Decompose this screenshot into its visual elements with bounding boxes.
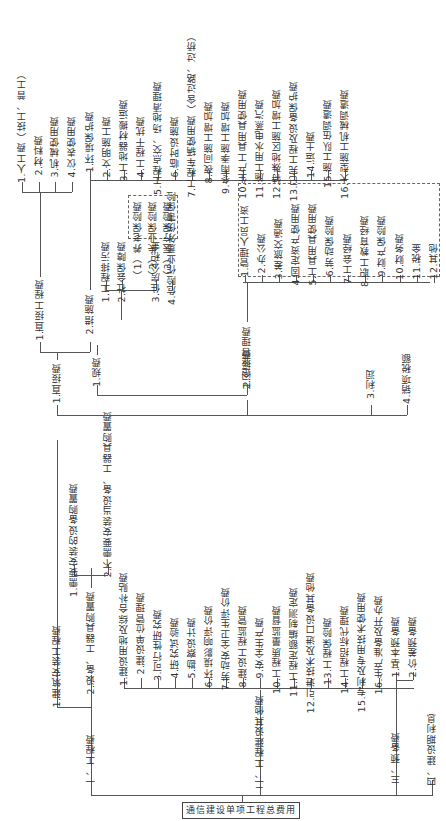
level1-bus <box>91 795 433 796</box>
connector <box>247 400 248 415</box>
social-security-item: （2）失业保险费 <box>147 200 158 280</box>
measure-item: 4.工程干扰费 <box>135 115 146 178</box>
node-enterprise-management: 2.企业管理费 <box>241 325 252 388</box>
connector <box>57 707 91 708</box>
fee-item: 2.社会保障费 <box>116 240 127 303</box>
equipment-item: 1.需要安装的设备购置费 <box>68 482 79 597</box>
other-cost-item: 5.勘察设计费 <box>186 616 197 679</box>
connector <box>407 405 408 415</box>
measure-item: 14.运土费 <box>305 130 316 178</box>
management-item: 1.管理人员工资 <box>239 204 250 277</box>
connector <box>57 405 58 415</box>
measure-item: 12.特殊地区施工增加费 <box>271 88 282 199</box>
node-construction-interest: 四、建设期利息 <box>426 712 437 786</box>
connector <box>262 275 263 283</box>
equipment-item: 2.不需要安装当设备、工器具购置费 <box>102 410 113 578</box>
direct-engineering-item: 2.材料费 <box>33 134 44 176</box>
other-cost-item: 2.建设单位管理费 <box>135 591 146 675</box>
social-security-item: （3）医疗保险费 <box>162 200 173 280</box>
node-building-install-cost: 1.建筑安装工程费 <box>51 624 62 708</box>
measure-item: 15.施工队伍调遣费 <box>322 98 333 188</box>
management-bus <box>243 282 430 283</box>
other-cost-item: 15.专利及专用技术使用费 <box>356 591 367 713</box>
node-measures: 2.措施费 <box>84 293 95 335</box>
other-cost-item: 11.工程定额编制测定费 <box>288 586 299 697</box>
connector <box>396 680 413 681</box>
other-cost-item: 4.研究试验费 <box>169 616 180 679</box>
node-engineering-cost: 一、工程费 <box>85 733 96 786</box>
connector <box>57 352 58 360</box>
connector <box>90 180 91 290</box>
management-item: 6.劳动保险费 <box>324 214 335 277</box>
measure-item: 16.大型施工机械调遣费 <box>339 88 350 199</box>
management-item: 9.财产保险费 <box>376 214 387 277</box>
management-item: 8.职工教育经费 <box>359 214 370 287</box>
measure-item: 13.已完工程及设备保护费 <box>288 80 299 202</box>
node-direct-engineering: 1.直接工程费 <box>34 278 45 341</box>
construction-bus <box>57 415 407 416</box>
connector <box>39 182 40 192</box>
other-cost-item: 1.建设用地及综合补贴费 <box>118 571 129 686</box>
other-cost-item: 12.引进技术及进口设备其他费 <box>305 571 316 714</box>
connector <box>260 678 261 688</box>
other-cost-item: 10.工程质量监督费 <box>271 604 282 694</box>
other-costs-bus <box>124 688 414 689</box>
connector <box>106 290 156 291</box>
other-cost-item: 13.工程保险费 <box>322 616 333 685</box>
management-item: 10.财务费 <box>394 232 405 280</box>
connector <box>40 342 41 352</box>
connector <box>247 282 248 322</box>
connector <box>22 182 23 192</box>
connector <box>91 568 92 588</box>
social-security-item: （1）养老保险费 <box>132 200 143 280</box>
measure-item: 11.施工用水电蒸汽费 <box>254 98 265 199</box>
measure-item: 6.临时设施费 <box>169 115 180 178</box>
other-cost-item: 7.劳动安全卫生评价费 <box>220 586 231 691</box>
measure-item: 9.冬雨季施工增加费 <box>220 100 231 194</box>
node-equipment-purchase: 2.设备、工器具购置费 <box>85 590 96 695</box>
measure-item: 10.生产工具用具使用费 <box>237 88 248 199</box>
measure-item: 2.文明施工费 <box>101 115 112 178</box>
other-cost-item: 6.环境影响评价费 <box>203 604 214 688</box>
connector <box>40 192 41 277</box>
node-other-construction-cost: 二、工程建设其他费 <box>254 694 265 789</box>
direct-engineering-item: 3.机械使用费 <box>49 115 60 178</box>
connector <box>72 182 73 192</box>
connector <box>55 182 56 192</box>
management-item: 11.税金 <box>411 242 422 280</box>
measure-item: 3.工地器材搬运费 <box>118 98 129 182</box>
node-reserve-cost: 三、预备费 <box>390 731 401 784</box>
connector <box>141 678 142 688</box>
connector <box>242 795 243 803</box>
root-node-total-cost: 通信建设单项工程总费用 <box>182 802 300 819</box>
other-cost-item: 14.工程招标代理费 <box>339 604 350 694</box>
indirect-bus <box>97 395 247 396</box>
management-item: 3.差旅交通费 <box>273 217 284 280</box>
measure-item: 1.环境保护费 <box>84 110 95 173</box>
node-output-tax: 4.销项税额 <box>401 352 412 404</box>
connector <box>192 678 193 688</box>
connector <box>22 192 72 193</box>
node-statutory-fees: 1.规费 <box>91 356 102 387</box>
other-cost-item: 9.安全生产费 <box>254 616 265 679</box>
connector <box>97 345 98 355</box>
reserve-item: 2.价差预备费 <box>407 615 418 678</box>
fee-item: 1.工程排污费 <box>100 240 111 303</box>
connector <box>396 680 397 690</box>
direct-engineering-item: 1.人工费（技工、普工） <box>16 68 27 183</box>
node-profit: 3.利润 <box>365 368 376 399</box>
connector <box>40 352 90 353</box>
connector <box>175 678 176 688</box>
other-cost-item: 3.可行性研究费 <box>152 608 163 681</box>
node-direct-cost: 1.直接费 <box>51 362 62 404</box>
direct-engineering-item: 4.仪表使用费 <box>66 115 77 178</box>
connector <box>371 405 372 415</box>
reserve-item: 1.基本预备费 <box>390 615 401 678</box>
management-item: 5.工具用具使用费 <box>307 202 318 286</box>
other-cost-item: 8.建设工程监管费 <box>237 604 248 688</box>
other-cost-item: 16.生产准备及开办费 <box>373 594 384 695</box>
management-item: 4.固定资产使用费 <box>290 202 301 286</box>
management-item: 12.其他 <box>428 242 439 280</box>
measure-item: 8.夜间施工增加费 <box>203 100 214 184</box>
management-item: 2.办公费 <box>256 232 267 274</box>
